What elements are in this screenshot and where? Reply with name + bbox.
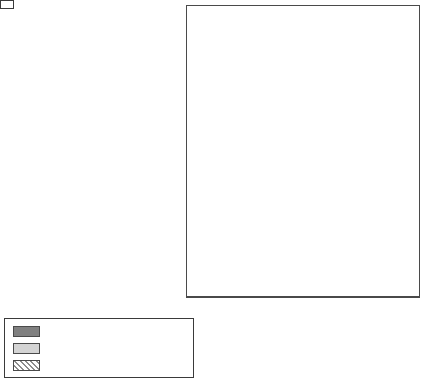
- category-label-box: [0, 0, 14, 9]
- grouped-bar-chart: [0, 0, 439, 382]
- chart-legend: [4, 318, 194, 378]
- dark-gray-swatch-icon: [13, 326, 40, 337]
- x-axis-line: [186, 297, 420, 298]
- hatched-swatch-icon: [13, 360, 40, 371]
- legend-item: [5, 323, 193, 340]
- legend-item: [5, 357, 193, 374]
- legend-item: [5, 340, 193, 357]
- plot-area: [186, 5, 420, 297]
- light-gray-swatch-icon: [13, 343, 40, 354]
